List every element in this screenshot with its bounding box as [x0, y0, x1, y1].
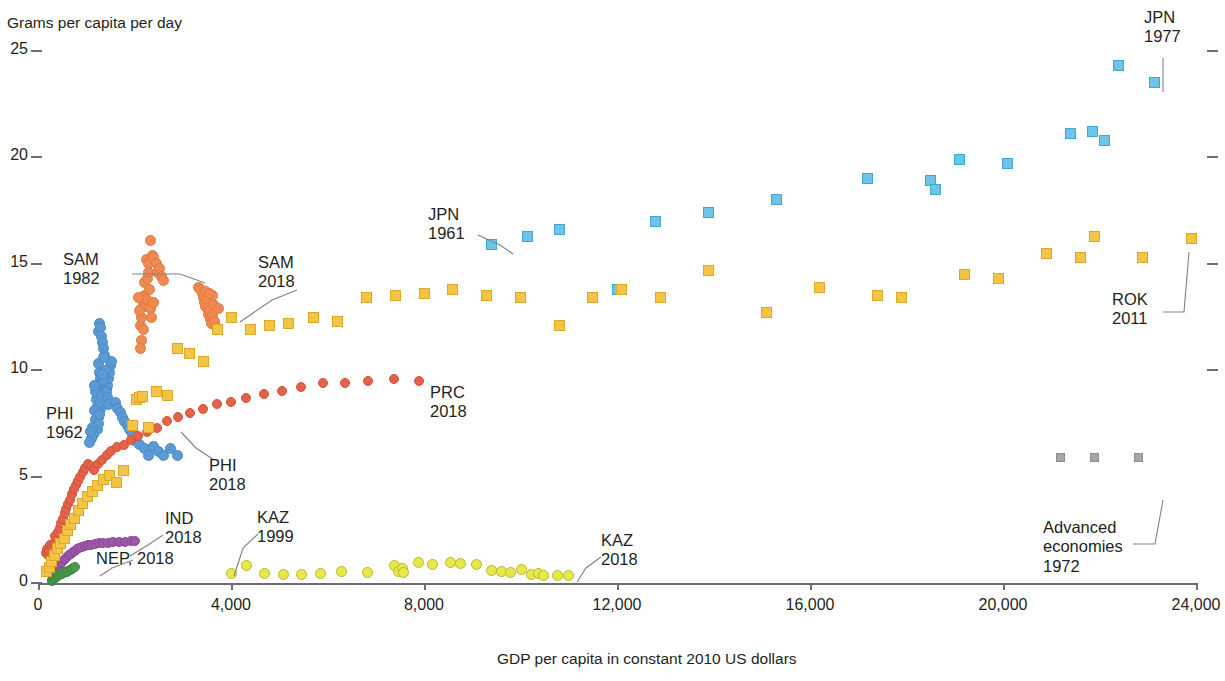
data-point [264, 320, 275, 331]
data-point [296, 382, 306, 392]
data-point [361, 292, 372, 303]
annotation-kaz-1999: KAZ 1999 [257, 508, 294, 547]
data-point [111, 477, 122, 488]
annotation-phi-2018: PHI 2018 [209, 456, 246, 495]
annotation-nep-2018: NEP, 2018 [96, 549, 174, 568]
data-point [172, 343, 183, 354]
data-point [1149, 77, 1160, 88]
data-point [447, 284, 458, 295]
data-point [398, 567, 409, 578]
data-point [930, 184, 941, 195]
y-tick-mark [31, 50, 42, 52]
data-point [144, 284, 155, 295]
data-point [1087, 126, 1098, 137]
y-axis-title: Grams per capita per day [7, 14, 182, 32]
data-point [259, 389, 269, 399]
data-point [151, 386, 162, 397]
data-point [616, 284, 627, 295]
right-tick-mark [1207, 50, 1218, 52]
data-point [172, 450, 183, 461]
annotation-phi-1962: PHI 1962 [46, 404, 83, 443]
data-point [283, 318, 294, 329]
data-point [213, 303, 224, 314]
x-tick-label: 4,000 [181, 596, 281, 614]
data-point [241, 560, 252, 571]
y-tick-mark [31, 476, 42, 478]
y-tick-label: 15 [0, 253, 28, 271]
data-point [993, 273, 1004, 284]
data-point [427, 559, 438, 570]
data-point [148, 297, 159, 308]
data-point [278, 569, 289, 580]
data-point [761, 307, 772, 318]
data-point [814, 282, 825, 293]
annotation-ind-2018: IND 2018 [165, 509, 202, 548]
data-point [1113, 60, 1124, 71]
y-tick-label: 5 [0, 466, 28, 484]
data-point [587, 292, 598, 303]
annotation-jpn-1961: JPN 1961 [428, 205, 465, 244]
data-point [390, 290, 401, 301]
x-tick-label: 0 [0, 596, 88, 614]
data-point [198, 356, 209, 367]
data-point [137, 391, 148, 402]
y-tick-label: 0 [0, 572, 28, 590]
data-point [226, 568, 237, 579]
data-point [650, 216, 661, 227]
right-tick-mark [1207, 263, 1218, 265]
x-axis-line [38, 583, 1196, 585]
x-axis-title: GDP per capita in constant 2010 US dolla… [497, 650, 797, 668]
y-tick-label: 20 [0, 146, 28, 164]
annotation-jpn-1977: JPN 1977 [1144, 8, 1181, 47]
data-point [1056, 453, 1065, 462]
data-point [70, 562, 80, 572]
x-tick-label: 16,000 [760, 596, 860, 614]
data-point [226, 312, 237, 323]
data-point [862, 173, 873, 184]
data-point [336, 566, 347, 577]
data-point [363, 376, 373, 386]
data-point [959, 269, 970, 280]
data-point [118, 465, 129, 476]
data-point [226, 397, 236, 407]
data-point [413, 557, 424, 568]
annotation-sam-2018: SAM 2018 [258, 253, 295, 292]
x-tick-mark [1196, 583, 1198, 590]
data-point [362, 567, 373, 578]
data-point [505, 567, 516, 578]
data-point [98, 352, 109, 363]
data-point [127, 420, 138, 431]
data-point [954, 154, 965, 165]
data-point [332, 316, 343, 327]
data-point [703, 207, 714, 218]
y-tick-label: 25 [0, 40, 28, 58]
data-point [184, 348, 195, 359]
data-point [455, 558, 466, 569]
data-point [414, 376, 424, 386]
data-point [703, 265, 714, 276]
data-point [146, 312, 157, 323]
data-point [1099, 135, 1110, 146]
data-point [486, 239, 497, 250]
data-point [1090, 453, 1099, 462]
data-point [445, 557, 456, 568]
data-point [212, 324, 223, 335]
data-point [538, 570, 549, 581]
data-point [212, 399, 222, 409]
data-point [554, 320, 565, 331]
y-tick-mark [31, 156, 42, 158]
data-point [872, 290, 883, 301]
y-tick-mark [31, 263, 42, 265]
data-point [85, 426, 96, 437]
annotation-adv-1972: Advanced economies 1972 [1043, 518, 1123, 576]
data-point [158, 275, 169, 286]
data-point [185, 408, 195, 418]
data-point [554, 224, 565, 235]
data-point [162, 416, 172, 426]
data-point [296, 569, 307, 580]
y-tick-mark [31, 369, 42, 371]
x-tick-label: 8,000 [374, 596, 474, 614]
data-point [1041, 248, 1052, 259]
data-point [1137, 252, 1148, 263]
data-point [84, 437, 95, 448]
